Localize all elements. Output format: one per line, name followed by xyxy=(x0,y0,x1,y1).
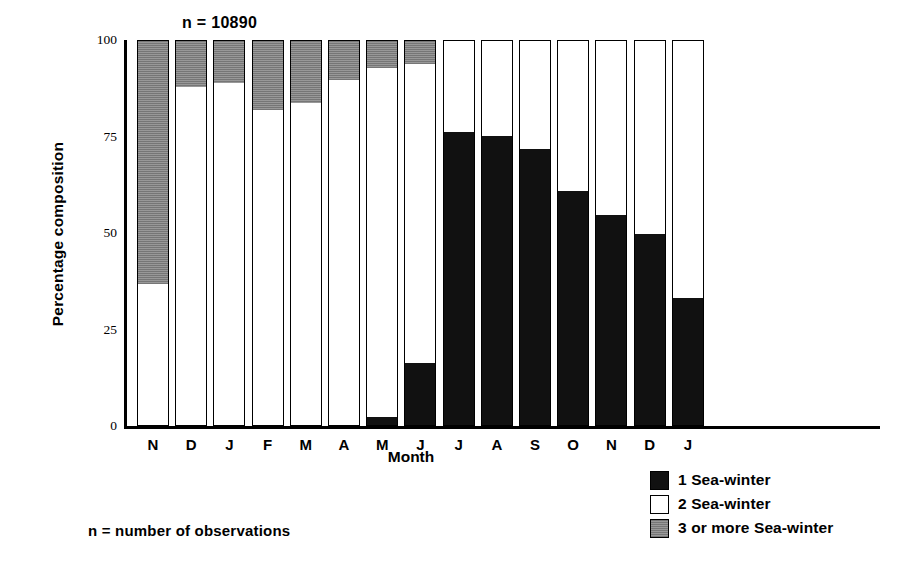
bar-8 xyxy=(443,40,475,426)
bar-5 xyxy=(328,40,360,426)
bar-segment xyxy=(253,41,283,110)
bar-segment xyxy=(635,40,665,234)
legend-label: 3 or more Sea-winter xyxy=(678,519,833,537)
y-tick-label: 50 xyxy=(104,225,118,241)
bar-segment xyxy=(520,40,550,149)
bar-segment xyxy=(558,191,588,425)
sample-size-annotation: n = 10890 xyxy=(182,14,257,32)
bar-segment xyxy=(291,41,321,103)
bar-segment xyxy=(596,40,626,215)
bar-segment xyxy=(405,62,435,363)
bar-segment xyxy=(367,41,397,68)
bar-4 xyxy=(290,40,322,426)
legend-swatch-white xyxy=(650,495,669,514)
bar-10 xyxy=(519,40,551,426)
bar-segment xyxy=(329,78,359,425)
bar-segment xyxy=(253,108,283,425)
x-axis-line xyxy=(124,426,880,429)
bar-segment xyxy=(405,41,435,64)
bar-group xyxy=(124,40,880,426)
bar-segment xyxy=(482,40,512,136)
legend-label: 2 Sea-winter xyxy=(678,495,771,513)
bar-9 xyxy=(481,40,513,426)
bar-segment xyxy=(329,41,359,80)
bar-segment xyxy=(176,85,206,425)
y-tick-label: 75 xyxy=(104,129,118,145)
bar-segment xyxy=(176,41,206,87)
bar-3 xyxy=(252,40,284,426)
bar-14 xyxy=(672,40,704,426)
y-tick-label: 100 xyxy=(97,32,117,48)
legend-swatch-gray xyxy=(650,519,669,538)
bar-segment xyxy=(673,298,703,425)
y-axis-title: Percentage composition xyxy=(49,84,67,384)
bar-segment xyxy=(482,136,512,426)
legend-item: 3 or more Sea-winter xyxy=(650,516,833,540)
legend-label: 1 Sea-winter xyxy=(678,471,771,489)
plot-area: 0255075100 NDJFMAMJJASONDJ xyxy=(124,40,880,426)
bar-0 xyxy=(137,40,169,426)
bar-segment xyxy=(214,41,244,83)
bar-segment xyxy=(291,101,321,425)
bar-segment xyxy=(138,282,168,425)
bar-12 xyxy=(595,40,627,426)
bar-13 xyxy=(634,40,666,426)
bar-segment xyxy=(405,363,435,425)
bar-segment xyxy=(520,149,550,425)
bar-segment xyxy=(138,41,168,284)
bar-7 xyxy=(404,40,436,426)
bar-segment xyxy=(367,66,397,417)
bar-6 xyxy=(366,40,398,426)
chart-legend: 1 Sea-winter2 Sea-winter3 or more Sea-wi… xyxy=(650,468,833,540)
bar-segment xyxy=(673,40,703,298)
bar-segment xyxy=(214,81,244,425)
bar-2 xyxy=(213,40,245,426)
chart-footnote: n = number of observations xyxy=(88,522,290,539)
x-axis-title: Month xyxy=(124,448,698,466)
bar-segment xyxy=(596,215,626,425)
legend-item: 1 Sea-winter xyxy=(650,468,833,492)
bar-segment xyxy=(367,417,397,425)
bar-11 xyxy=(557,40,589,426)
y-tick-label: 25 xyxy=(104,322,118,338)
bar-1 xyxy=(175,40,207,426)
y-tick-label: 0 xyxy=(110,418,117,434)
bar-segment xyxy=(558,40,588,191)
chart-figure: Percentage composition n = 10890 0255075… xyxy=(0,0,898,565)
bar-segment xyxy=(444,132,474,425)
bar-segment xyxy=(444,40,474,132)
bar-segment xyxy=(635,234,665,425)
legend-swatch-black xyxy=(650,471,669,490)
legend-item: 2 Sea-winter xyxy=(650,492,833,516)
